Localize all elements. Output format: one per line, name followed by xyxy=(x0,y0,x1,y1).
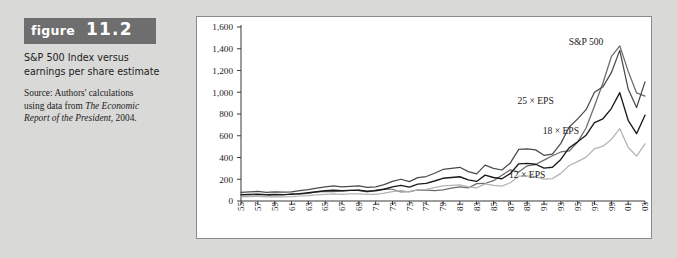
series-line-s-p-500 xyxy=(241,46,645,196)
source-line-2-italic: The Economic xyxy=(85,101,139,111)
x-tick-label: 57 xyxy=(253,202,263,212)
figure-page: figure 11.2 S&P 500 Index versus earning… xyxy=(0,0,677,258)
figure-title-line-1: S&P 500 Index versus xyxy=(24,51,170,65)
x-tick-label: 99 xyxy=(607,202,617,212)
x-tick-label: 75 xyxy=(405,202,415,212)
figure-title: S&P 500 Index versus earnings per share … xyxy=(24,51,170,78)
x-tick-label: 87 xyxy=(506,202,516,212)
series-label-18-eps: 18 × EPS xyxy=(543,125,579,136)
x-tick-label: 55 xyxy=(236,202,246,212)
x-tick-label: 73 xyxy=(388,202,398,212)
x-tick-label: 67 xyxy=(337,202,347,212)
x-tick-label: 77 xyxy=(421,202,431,212)
y-axis: 02004006008001,0001,2001,4001,600 xyxy=(212,22,241,206)
y-tick-label: 1,000 xyxy=(212,88,233,98)
figure-title-line-2: earnings per share estimate xyxy=(24,65,170,79)
figure-label-number: 11.2 xyxy=(86,19,133,39)
figure-caption-block: figure 11.2 S&P 500 Index versus earning… xyxy=(24,18,174,125)
source-line-3: Report of the President, 2004. xyxy=(24,112,170,125)
chart-panel: 02004006008001,0001,2001,4001,600 555759… xyxy=(196,16,652,239)
x-tick-label: 85 xyxy=(489,202,499,212)
y-tick-label: 1,200 xyxy=(212,66,233,76)
series-annotations: S&P 50025 × EPS18 × EPS12 × EPS xyxy=(509,36,604,179)
x-tick-label: 61 xyxy=(287,202,297,211)
x-tick-label: 83 xyxy=(472,202,482,212)
series-line-12-eps xyxy=(241,129,645,197)
series-line-25-eps xyxy=(241,50,645,192)
x-tick-label: 89 xyxy=(522,202,532,212)
x-axis: 5557596163656769717375777981838587899193… xyxy=(236,201,650,211)
y-tick-label: 1,600 xyxy=(212,22,233,32)
x-tick-label: 93 xyxy=(556,202,566,212)
figure-number-badge: figure 11.2 xyxy=(24,18,156,44)
y-tick-label: 400 xyxy=(219,153,233,163)
source-line-2-plain: using data from xyxy=(24,101,85,111)
y-tick-label: 200 xyxy=(219,175,233,185)
y-tick-label: 1,400 xyxy=(212,44,233,54)
x-tick-label: 91 xyxy=(539,202,549,211)
x-tick-label: 71 xyxy=(371,202,381,211)
source-line-2: using data from The Economic xyxy=(24,100,170,113)
source-line-3-italic: Report of the President, xyxy=(24,113,113,123)
x-tick-label: 59 xyxy=(270,202,280,212)
x-tick-label: 65 xyxy=(320,202,330,212)
figure-source-note: Source: Authors' calculations using data… xyxy=(24,87,170,125)
x-tick-label: 01 xyxy=(623,202,633,211)
source-line-3-plain: 2004. xyxy=(113,113,136,123)
x-tick-label: 97 xyxy=(590,202,600,212)
x-tick-label: 79 xyxy=(438,202,448,212)
source-line-1: Source: Authors' calculations xyxy=(24,87,170,100)
x-tick-label: 95 xyxy=(573,202,583,212)
y-tick-label: 600 xyxy=(219,131,233,141)
series-line-18-eps xyxy=(241,93,645,195)
series-label-25-eps: 25 × EPS xyxy=(517,95,553,106)
x-tick-label: 63 xyxy=(304,202,314,212)
x-tick-label: 03 xyxy=(640,202,650,212)
line-chart: 02004006008001,0001,2001,4001,600 555759… xyxy=(197,17,651,238)
figure-label-word: figure xyxy=(31,23,75,38)
x-tick-label: 81 xyxy=(455,202,465,211)
y-tick-label: 800 xyxy=(219,109,233,119)
y-tick-label: 0 xyxy=(228,196,233,206)
series-lines xyxy=(241,46,645,197)
series-label-12-eps: 12 × EPS xyxy=(509,169,545,180)
series-label-s-p-500: S&P 500 xyxy=(569,36,604,47)
x-tick-label: 69 xyxy=(354,202,364,212)
